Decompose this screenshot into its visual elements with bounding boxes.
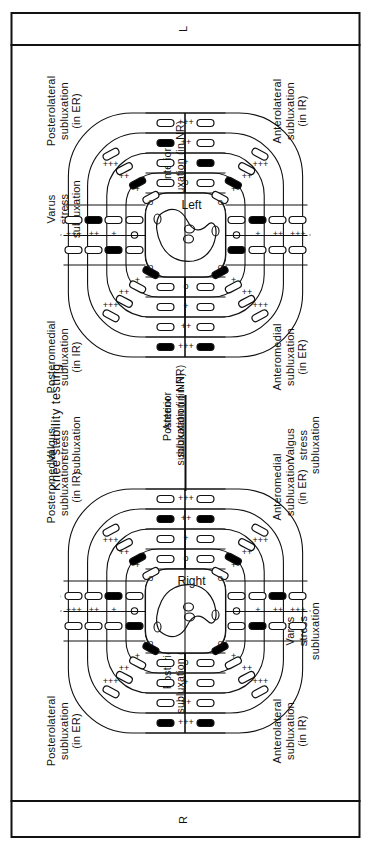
- divider-left-end: [10, 801, 360, 803]
- svg-text:+++: +++: [66, 229, 82, 239]
- svg-text:+++: +++: [178, 717, 194, 727]
- svg-text:30°: 30°: [60, 594, 61, 603]
- svg-text:++: ++: [118, 171, 129, 181]
- svg-text:Right: Right: [177, 574, 206, 588]
- svg-text:+: +: [231, 651, 236, 661]
- svg-text:+++: +++: [252, 300, 268, 310]
- svg-text:+: +: [111, 605, 116, 615]
- svg-text:+: +: [183, 677, 188, 687]
- svg-text:o: o: [148, 573, 153, 583]
- svg-text:+++: +++: [290, 229, 306, 239]
- svg-text:o: o: [183, 553, 188, 563]
- svg-text:+++: +++: [178, 117, 194, 127]
- svg-text:+++: +++: [290, 605, 306, 615]
- label-posterior-nr-l: Posterior subluxation (in NR): [160, 364, 185, 474]
- svg-text:+: +: [255, 229, 260, 239]
- svg-text:+++: +++: [252, 535, 268, 545]
- svg-text:++: ++: [241, 663, 252, 673]
- svg-text:++: ++: [88, 229, 99, 239]
- svg-text:o: o: [183, 281, 188, 291]
- svg-text:++: ++: [118, 547, 129, 557]
- svg-text:+++: +++: [66, 605, 82, 615]
- svg-text:+: +: [134, 651, 139, 661]
- side-marker-left: L: [176, 25, 188, 32]
- svg-text:o: o: [217, 262, 222, 272]
- svg-text:++: ++: [180, 321, 191, 331]
- svg-text:+: +: [111, 229, 116, 239]
- svg-text:++: ++: [118, 663, 129, 673]
- svg-text:+: +: [183, 301, 188, 311]
- svg-text:+++: +++: [178, 493, 194, 503]
- svg-text:+++: +++: [178, 341, 194, 351]
- label-valgus-l: Valgus stress subluxation: [44, 400, 82, 490]
- rosette-right-knee: ++++++++++++o++++++o++++++o++++++o++++++…: [60, 486, 310, 736]
- svg-text:++: ++: [118, 287, 129, 297]
- svg-text:+: +: [134, 184, 139, 194]
- svg-text:+: +: [231, 560, 236, 570]
- svg-text:+++: +++: [252, 676, 268, 686]
- svg-text:++: ++: [241, 171, 252, 181]
- svg-text:o: o: [148, 197, 153, 207]
- svg-text:++: ++: [272, 605, 283, 615]
- svg-text:o: o: [183, 177, 188, 187]
- svg-text:o: o: [183, 657, 188, 667]
- svg-text:o: o: [217, 638, 222, 648]
- svg-text:++: ++: [88, 605, 99, 615]
- svg-text:++: ++: [180, 697, 191, 707]
- svg-text:++: ++: [241, 287, 252, 297]
- divider-right-end: [10, 45, 360, 47]
- svg-text:+++: +++: [102, 300, 118, 310]
- svg-text:+++: +++: [102, 159, 118, 169]
- svg-text:+: +: [255, 605, 260, 615]
- svg-text:+: +: [231, 275, 236, 285]
- svg-text:+: +: [231, 184, 236, 194]
- label-valgus-r: Valgus stress subluxation: [283, 400, 321, 490]
- svg-text:+++: +++: [102, 676, 118, 686]
- svg-text:+: +: [134, 560, 139, 570]
- side-marker-right: R: [176, 816, 188, 824]
- svg-text:30°: 30°: [60, 218, 61, 227]
- svg-text:++: ++: [180, 137, 191, 147]
- svg-text:+: +: [183, 533, 188, 543]
- svg-text:o: o: [217, 573, 222, 583]
- rotated-sheet: R L Knee stability testing Posterolatera…: [0, 0, 369, 846]
- svg-text:++: ++: [180, 513, 191, 523]
- rosette-left-knee: ++++++++++++o++++++o++++++o++++++o++++++…: [60, 110, 310, 360]
- svg-text:+: +: [183, 157, 188, 167]
- diagram-stage: R L Knee stability testing Posterolatera…: [0, 0, 369, 846]
- svg-text:+: +: [134, 275, 139, 285]
- svg-text:o: o: [148, 638, 153, 648]
- svg-text:++: ++: [272, 229, 283, 239]
- svg-text:+++: +++: [252, 159, 268, 169]
- svg-text:++: ++: [241, 547, 252, 557]
- svg-text:o: o: [148, 262, 153, 272]
- svg-text:Left: Left: [181, 198, 202, 212]
- svg-text:o: o: [217, 197, 222, 207]
- svg-text:+++: +++: [102, 535, 118, 545]
